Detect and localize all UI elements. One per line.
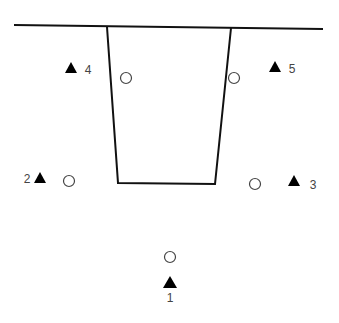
station-5: 5 [269, 61, 296, 76]
station-label: 1 [167, 291, 174, 305]
circle-inner-left-icon [121, 73, 132, 84]
circle-bottom-icon [165, 252, 176, 263]
station-label: 3 [310, 178, 317, 192]
triangle-marker-icon [34, 172, 46, 183]
circle-right-icon [250, 179, 261, 190]
circle-inner-right-icon [229, 73, 240, 84]
triangle-marker-icon [288, 175, 300, 186]
station-label: 5 [289, 62, 296, 76]
station-2: 2 [24, 172, 46, 186]
triangle-marker-icon [269, 61, 281, 72]
station-label: 2 [24, 172, 31, 186]
circle-markers [64, 73, 261, 263]
circle-left-icon [64, 176, 75, 187]
station-4: 4 [65, 62, 92, 77]
triangle-marker-icon [163, 276, 177, 288]
ground-surface-line [14, 25, 323, 29]
station-1: 1 [163, 276, 177, 305]
station-3: 3 [288, 175, 317, 192]
trench-outline [107, 27, 231, 184]
station-label: 4 [85, 63, 92, 77]
diagram-canvas: 12345 [0, 0, 339, 323]
triangle-marker-icon [65, 62, 77, 73]
